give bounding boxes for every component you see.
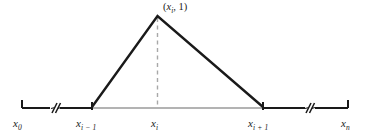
tick-label-subscript: i + 1 bbox=[253, 123, 269, 132]
axis-tick-label-x-i-plus-1: xi + 1 bbox=[248, 118, 269, 129]
tick-label-subscript: i bbox=[156, 123, 158, 132]
tick-label-subscript: n bbox=[346, 123, 350, 132]
apex-variable-subscript: i bbox=[171, 6, 173, 15]
axis-break-right-icon bbox=[305, 103, 315, 113]
apex-annotation: (xi, 1) bbox=[163, 2, 187, 13]
axis-tick-label-x-n: xn bbox=[341, 118, 350, 129]
axis-break-left-icon bbox=[51, 103, 61, 113]
axis-tick-label-x-0: x0 bbox=[13, 118, 22, 129]
tick-label-subscript: i − 1 bbox=[81, 123, 97, 132]
hat-function-curve bbox=[92, 16, 263, 107]
axis-tick-label-x-i-minus-1: xi − 1 bbox=[76, 118, 97, 129]
apex-close-paren: ) bbox=[184, 1, 188, 12]
axis-tick-label-x-i: xi bbox=[151, 118, 158, 129]
figure-canvas bbox=[0, 0, 368, 138]
tick-label-subscript: 0 bbox=[18, 123, 22, 132]
hat-function-figure: (xi, 1) x0 xi − 1 xi xi + 1 xn bbox=[0, 0, 368, 138]
